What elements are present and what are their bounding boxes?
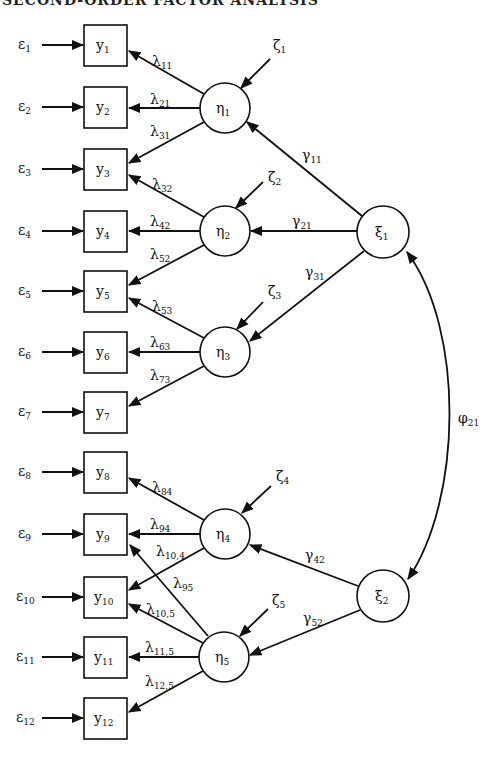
box-y4: y4 <box>84 211 127 252</box>
disturbance-arrow-z5 <box>240 609 268 636</box>
svg-text:λ12,5: λ12,5 <box>145 673 174 691</box>
svg-text:ζ4: ζ4 <box>276 468 290 486</box>
svg-text:ζ2: ζ2 <box>268 169 281 187</box>
svg-text:λ53: λ53 <box>152 298 173 316</box>
svg-text:λ32: λ32 <box>152 176 172 194</box>
box-y1: y1 <box>84 25 127 66</box>
svg-text:λ73: λ73 <box>150 367 171 385</box>
svg-text:γ42: γ42 <box>305 547 325 565</box>
svg-text:ε2: ε2 <box>18 98 31 116</box>
svg-text:ε4: ε4 <box>18 222 31 240</box>
box-y7: y7 <box>84 392 127 433</box>
loading-arrow-l53 <box>129 298 204 338</box>
box-y9: y9 <box>84 514 127 555</box>
svg-text:λ95: λ95 <box>173 575 194 593</box>
disturbance-arrow-z1 <box>241 59 270 88</box>
node-eta5: η5 <box>199 632 249 682</box>
svg-text:ε8: ε8 <box>18 463 31 481</box>
node-xi1: ξ1 <box>357 206 409 258</box>
svg-text:ε11: ε11 <box>16 648 35 666</box>
node-eta3: η3 <box>200 327 250 377</box>
svg-text:ε7: ε7 <box>18 403 31 421</box>
path-diagram: y1 y2 y3 y4 y5 y6 y7 y8 y9 y10 y11 y12 ε… <box>0 0 500 757</box>
box-y11: y11 <box>84 637 127 678</box>
second-order-factors: ξ1 ξ2 <box>357 206 409 622</box>
loading-arrow-l125 <box>129 671 203 712</box>
covariance-phi21: φ21 <box>407 252 479 579</box>
svg-text:λ11,5: λ11,5 <box>145 639 174 657</box>
loading-arrow-l73 <box>129 366 204 406</box>
structural-paths: γ11 γ21 γ31 γ42 γ52 <box>247 122 364 655</box>
node-xi2: ξ2 <box>357 570 409 622</box>
covariance-arrow <box>407 252 450 579</box>
svg-text:λ42: λ42 <box>150 213 170 231</box>
svg-text:λ10,4: λ10,4 <box>156 543 185 561</box>
svg-text:λ31: λ31 <box>150 123 170 141</box>
box-y6: y6 <box>84 332 127 373</box>
loading-arrow-l84 <box>129 478 204 520</box>
box-y10: y10 <box>84 577 127 618</box>
gamma-arrow-g42 <box>250 545 358 586</box>
svg-text:ζ3: ζ3 <box>268 283 282 301</box>
svg-text:γ52: γ52 <box>303 610 323 628</box>
svg-text:ε6: ε6 <box>18 343 31 361</box>
svg-text:γ11: γ11 <box>302 147 322 165</box>
node-eta4: η4 <box>200 509 250 559</box>
disturbance-arrow-z3 <box>237 302 263 329</box>
svg-text:γ31: γ31 <box>305 264 325 282</box>
svg-text:λ10,5: λ10,5 <box>146 601 175 619</box>
box-y5: y5 <box>84 271 127 312</box>
svg-text:ε10: ε10 <box>16 588 35 606</box>
svg-text:ε12: ε12 <box>16 709 35 727</box>
first-order-factors: η1 η2 η3 η4 η5 <box>199 83 250 682</box>
disturbance-arrow-z2 <box>236 182 263 208</box>
svg-text:λ94: λ94 <box>150 516 171 534</box>
svg-text:ε3: ε3 <box>18 160 31 178</box>
loading-arrow-l32 <box>129 175 204 217</box>
svg-text:λ21: λ21 <box>150 91 170 109</box>
loading-arrow-l31 <box>129 122 204 163</box>
node-eta1: η1 <box>200 83 250 133</box>
svg-text:λ63: λ63 <box>150 334 171 352</box>
svg-text:ε9: ε9 <box>18 525 31 543</box>
svg-text:ε5: ε5 <box>18 282 31 300</box>
svg-text:ζ1: ζ1 <box>273 37 286 55</box>
node-eta2: η2 <box>200 206 250 256</box>
box-y12: y12 <box>84 698 127 739</box>
svg-text:γ21: γ21 <box>292 213 312 231</box>
factor-loadings: λ11 λ21 λ31 λ32 λ42 λ52 λ53 λ63 λ73 λ84 … <box>129 51 208 712</box>
svg-text:φ21: φ21 <box>458 410 479 428</box>
svg-text:ζ5: ζ5 <box>272 592 286 610</box>
svg-text:λ84: λ84 <box>152 479 173 497</box>
svg-text:λ52: λ52 <box>150 246 170 264</box>
loading-arrow-l52 <box>129 245 204 285</box>
disturbance-arrow-z4 <box>242 486 271 513</box>
box-y2: y2 <box>84 87 127 128</box>
svg-text:ε1: ε1 <box>18 36 31 54</box>
svg-text:λ11: λ11 <box>152 53 172 71</box>
observed-variables: y1 y2 y3 y4 y5 y6 y7 y8 y9 y10 y11 y12 <box>84 25 127 739</box>
error-terms: ε1 ε2 ε3 ε4 ε5 ε6 ε7 ε8 ε9 ε10 ε11 ε12 <box>16 36 83 727</box>
gamma-arrow-g11 <box>247 122 362 216</box>
box-y8: y8 <box>84 452 127 493</box>
loading-arrow-l11 <box>129 51 204 94</box>
box-y3: y3 <box>84 149 127 190</box>
